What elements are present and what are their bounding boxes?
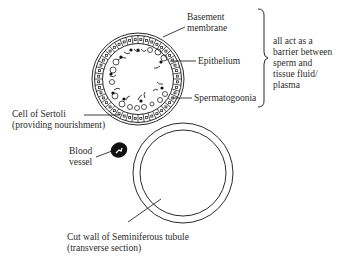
cut-wall-leader <box>128 199 161 222</box>
epithelium-ring <box>103 44 174 115</box>
label-line: (transverse section) <box>67 243 189 254</box>
label-basement-membrane: Basement membrane <box>187 12 227 33</box>
sperm-tails <box>110 49 163 100</box>
label-spermatogonia: Spermatogoonia <box>194 93 256 104</box>
label-line: membrane <box>187 23 227 34</box>
label-barrier-note: all act as a barrier between sperm and t… <box>273 36 332 91</box>
blood-vessel-shape <box>108 140 130 161</box>
detailed-tubule <box>92 33 184 125</box>
label-line: plasma <box>273 80 332 91</box>
label-line: sperm and <box>273 58 332 69</box>
label-cut-wall: Cut wall of Seminiferous tubule (transve… <box>67 232 189 253</box>
spermatids <box>110 48 168 111</box>
label-epithelium: Epithelium <box>198 56 240 67</box>
brace <box>258 9 268 107</box>
basement-membrane-outer <box>92 33 184 125</box>
label-sertoli: Cell of Sertoli (providing nourishment) <box>12 109 105 130</box>
label-line: all act as a <box>273 36 332 47</box>
label-line: Basement <box>187 12 227 23</box>
cut-wall-inner <box>140 130 226 216</box>
label-line: vessel <box>69 157 92 168</box>
label-line: tissue fluid/ <box>273 69 332 80</box>
blood-vessel-leader <box>96 151 112 157</box>
label-line: (providing nourishment) <box>12 120 105 131</box>
label-line: Blood <box>69 146 92 157</box>
label-blood-vessel: Blood vessel <box>69 146 92 167</box>
basement-membrane-leader <box>163 27 185 37</box>
label-line: Cell of Sertoli <box>12 109 105 120</box>
label-line: barrier between <box>273 47 332 58</box>
label-line: Cut wall of Seminiferous tubule <box>67 232 189 243</box>
